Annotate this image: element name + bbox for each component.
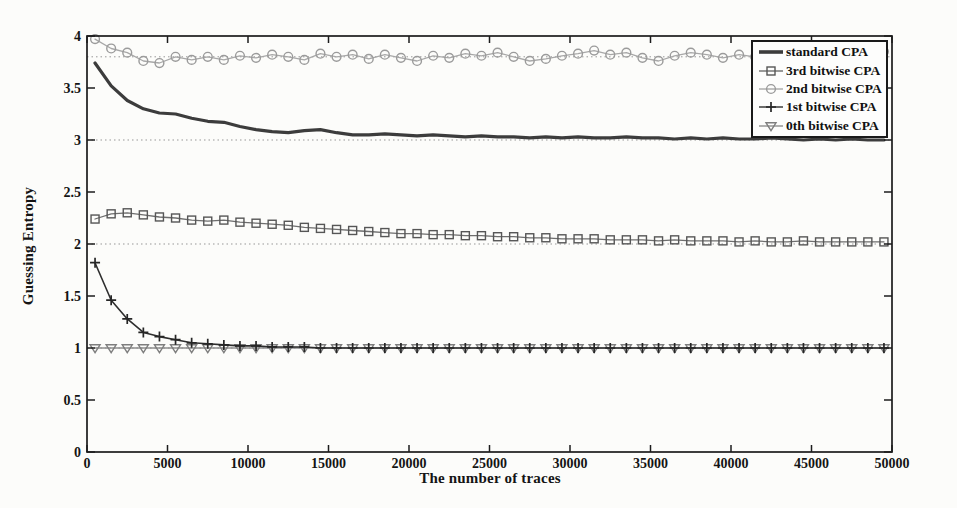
y-tick-label: 2.5 bbox=[64, 185, 82, 200]
legend: standard CPA 3rd bitwise CPA 2nd bitwise… bbox=[751, 40, 888, 138]
triangle-marker bbox=[171, 345, 181, 353]
x-tick-label: 15000 bbox=[311, 456, 346, 471]
legend-item-1st-bitwise-cpa: 1st bitwise CPA bbox=[758, 98, 882, 116]
y-tick-label: 1.5 bbox=[64, 289, 82, 304]
legend-circle-marker-icon bbox=[758, 82, 784, 96]
plus-marker bbox=[235, 341, 245, 351]
triangle-marker bbox=[138, 345, 148, 353]
legend-item-0th-bitwise-cpa: 0th bitwise CPA bbox=[758, 117, 882, 135]
triangle-marker bbox=[154, 345, 164, 353]
plus-marker bbox=[267, 342, 277, 352]
y-tick-label: 0 bbox=[74, 445, 81, 460]
series-line-3 bbox=[95, 263, 884, 348]
y-tick-label: 3 bbox=[74, 133, 81, 148]
x-tick-label: 25000 bbox=[472, 456, 507, 471]
x-axis-title: The number of traces bbox=[419, 470, 561, 487]
x-tick-label: 40000 bbox=[714, 456, 749, 471]
legend-label: standard CPA bbox=[786, 44, 868, 60]
triangle-marker bbox=[106, 345, 116, 353]
x-tick-label: 45000 bbox=[794, 456, 829, 471]
y-tick-label: 2 bbox=[74, 237, 81, 252]
y-tick-label: 0.5 bbox=[64, 393, 82, 408]
legend-item-standard-cpa: standard CPA bbox=[758, 43, 882, 61]
legend-item-3rd-bitwise-cpa: 3rd bitwise CPA bbox=[758, 62, 882, 80]
triangle-marker bbox=[122, 345, 132, 353]
y-axis-title: Guessing Entropy bbox=[20, 187, 37, 305]
x-tick-label: 10000 bbox=[231, 456, 266, 471]
y-tick-label: 3.5 bbox=[64, 81, 82, 96]
plus-marker bbox=[154, 332, 164, 342]
x-tick-label: 30000 bbox=[553, 456, 588, 471]
plus-marker bbox=[251, 341, 261, 351]
x-tick-label: 35000 bbox=[633, 456, 668, 471]
x-tick-label: 50000 bbox=[875, 456, 910, 471]
legend-thick-line-icon bbox=[758, 45, 784, 59]
legend-label: 0th bitwise CPA bbox=[786, 118, 879, 134]
series-line-1 bbox=[95, 213, 884, 242]
plus-marker bbox=[171, 335, 181, 345]
y-tick-label: 1 bbox=[74, 341, 81, 356]
plus-marker bbox=[283, 342, 293, 352]
legend-item-2nd-bitwise-cpa: 2nd bitwise CPA bbox=[758, 80, 882, 98]
x-tick-label: 0 bbox=[84, 456, 91, 471]
x-tick-label: 5000 bbox=[154, 456, 182, 471]
plus-marker bbox=[90, 258, 100, 268]
plus-marker bbox=[299, 342, 309, 352]
legend-plus-marker-icon bbox=[758, 100, 784, 114]
y-tick-label: 4 bbox=[74, 29, 81, 44]
x-tick-label: 20000 bbox=[392, 456, 427, 471]
legend-label: 3rd bitwise CPA bbox=[786, 63, 880, 79]
legend-label: 2nd bitwise CPA bbox=[786, 81, 882, 97]
legend-square-marker-icon bbox=[758, 64, 784, 78]
figure: Guessing Entropy The number of traces 05… bbox=[0, 0, 957, 508]
legend-triangle-marker-icon bbox=[758, 119, 784, 133]
legend-label: 1st bitwise CPA bbox=[786, 99, 877, 115]
